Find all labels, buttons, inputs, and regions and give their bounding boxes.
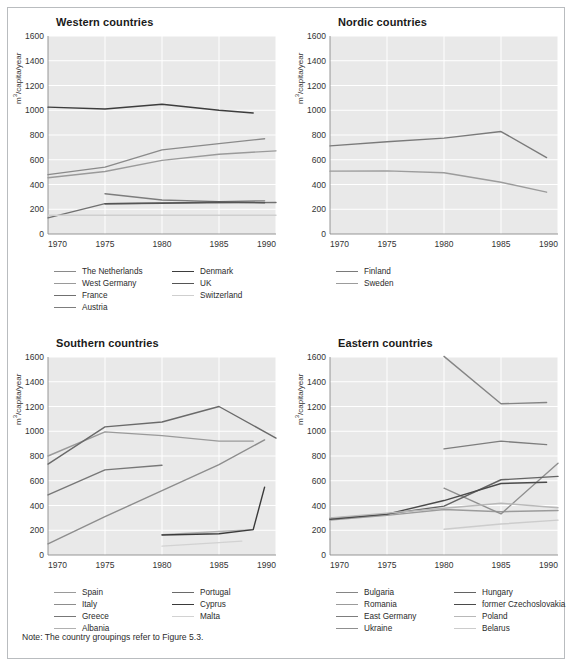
figure-container: Western countries m3/capita/year 0200400… xyxy=(7,7,565,659)
legend-column-left: The NetherlandsWest GermanyFranceAustria xyxy=(54,266,172,314)
legend-label: Cyprus xyxy=(200,599,226,611)
y-tick-label: 0 xyxy=(321,550,326,560)
legend-swatch-icon xyxy=(172,283,194,284)
legend-eastern: BulgariaRomaniaEast GermanyUkraineHungar… xyxy=(336,587,574,635)
legend-column-right: PortugalCyprusMalta xyxy=(172,587,292,623)
legend-item: UK xyxy=(172,278,292,290)
legend-swatch-icon xyxy=(54,307,76,308)
legend-item: Hungary xyxy=(454,587,574,599)
legend-nordic: FinlandSweden xyxy=(336,266,574,290)
legend-swatch-icon xyxy=(172,604,194,605)
legend-label: The Netherlands xyxy=(82,266,143,278)
x-tick-label: 1985 xyxy=(210,560,229,570)
x-tick-label: 1985 xyxy=(492,560,511,570)
plot-area-nordic: m3/capita/year 0200400600800100012001400… xyxy=(296,30,568,262)
legend-swatch-icon xyxy=(54,283,76,284)
plot-area-western: m3/capita/year 0200400600800100012001400… xyxy=(14,30,286,262)
legend-item: East Germany xyxy=(336,611,454,623)
legend-swatch-icon xyxy=(54,604,76,605)
legend-item: Greece xyxy=(54,611,172,623)
legend-label: France xyxy=(82,290,107,302)
x-tick-label: 1975 xyxy=(378,239,397,249)
x-tick-label: 1980 xyxy=(435,560,454,570)
legend-item: Malta xyxy=(172,611,292,623)
x-tick-label: 1990 xyxy=(257,560,276,570)
legend-column-left: FinlandSweden xyxy=(336,266,454,290)
legend-column-left: SpainItalyGreeceAlbania xyxy=(54,587,172,635)
legend-swatch-icon xyxy=(336,592,358,593)
y-tick-label: 0 xyxy=(39,550,44,560)
legend-swatch-icon xyxy=(454,616,476,617)
x-tick-label: 1990 xyxy=(539,560,558,570)
y-tick-label: 200 xyxy=(312,204,326,214)
y-tick-label: 1000 xyxy=(25,426,44,436)
legend-item: Poland xyxy=(454,611,574,623)
legend-label: Spain xyxy=(82,587,103,599)
legend-item: Bulgaria xyxy=(336,587,454,599)
x-tick-label: 1970 xyxy=(48,239,67,249)
y-tick-label: 800 xyxy=(312,451,326,461)
y-tick-label: 1200 xyxy=(25,81,44,91)
plot-area-eastern: m3/capita/year 0200400600800100012001400… xyxy=(296,351,568,583)
y-tick-label: 800 xyxy=(312,130,326,140)
legend-swatch-icon xyxy=(336,604,358,605)
legend-swatch-icon xyxy=(54,295,76,296)
y-tick-label: 400 xyxy=(30,180,44,190)
legend-item: Belarus xyxy=(454,623,574,635)
y-tick-label: 0 xyxy=(39,229,44,239)
legend-swatch-icon xyxy=(172,295,194,296)
legend-item: West Germany xyxy=(54,278,172,290)
y-tick-label: 400 xyxy=(312,501,326,511)
y-tick-label: 800 xyxy=(30,130,44,140)
y-tick-label: 1000 xyxy=(307,426,326,436)
x-tick-label: 1985 xyxy=(210,239,229,249)
legend-swatch-icon xyxy=(336,628,358,629)
legend-label: East Germany xyxy=(364,611,416,623)
y-tick-label: 1600 xyxy=(25,352,44,362)
y-tick-label: 400 xyxy=(30,501,44,511)
legend-label: UK xyxy=(200,278,211,290)
panel-title: Nordic countries xyxy=(338,16,427,28)
x-tick-label: 1970 xyxy=(48,560,67,570)
legend-swatch-icon xyxy=(54,271,76,272)
y-tick-label: 1200 xyxy=(25,402,44,412)
legend-label: Malta xyxy=(200,611,220,623)
y-tick-label: 400 xyxy=(312,180,326,190)
legend-item: Switzerland xyxy=(172,290,292,302)
legend-item: Cyprus xyxy=(172,599,292,611)
x-tick-label: 1975 xyxy=(378,560,397,570)
x-tick-label: 1970 xyxy=(330,560,349,570)
panel-title: Western countries xyxy=(56,16,153,28)
legend-label: Sweden xyxy=(364,278,394,290)
legend-item: The Netherlands xyxy=(54,266,172,278)
legend-label: Austria xyxy=(82,302,107,314)
legend-swatch-icon xyxy=(54,628,76,629)
y-tick-label: 1600 xyxy=(25,31,44,41)
legend-swatch-icon xyxy=(454,628,476,629)
legend-item: France xyxy=(54,290,172,302)
legend-swatch-icon xyxy=(172,271,194,272)
legend-label: Finland xyxy=(364,266,391,278)
x-tick-label: 1980 xyxy=(153,560,172,570)
legend-item: Finland xyxy=(336,266,454,278)
y-tick-label: 1600 xyxy=(307,31,326,41)
legend-western: The NetherlandsWest GermanyFranceAustria… xyxy=(54,266,294,314)
y-tick-label: 0 xyxy=(321,229,326,239)
y-tick-label: 1000 xyxy=(25,105,44,115)
legend-item: former Czechoslovakia xyxy=(454,599,574,611)
y-tick-label: 1400 xyxy=(307,377,326,387)
legend-swatch-icon xyxy=(454,604,476,605)
legend-item: Romania xyxy=(336,599,454,611)
y-tick-label: 1200 xyxy=(307,81,326,91)
x-tick-label: 1970 xyxy=(330,239,349,249)
legend-swatch-icon xyxy=(336,271,358,272)
x-tick-label: 1975 xyxy=(96,239,115,249)
x-tick-label: 1975 xyxy=(96,560,115,570)
legend-label: Denmark xyxy=(200,266,233,278)
panel-title: Eastern countries xyxy=(338,337,433,349)
legend-swatch-icon xyxy=(336,616,358,617)
y-tick-label: 1000 xyxy=(307,105,326,115)
legend-label: Switzerland xyxy=(200,290,242,302)
legend-label: former Czechoslovakia xyxy=(482,599,565,611)
y-tick-label: 200 xyxy=(312,525,326,535)
